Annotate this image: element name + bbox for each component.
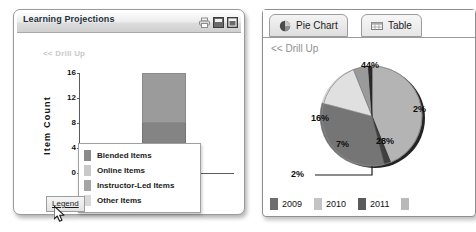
pie-legend-item-2011[interactable]: 2011 xyxy=(358,198,389,210)
legend-swatch-online xyxy=(84,165,91,176)
legend-swatch-blended xyxy=(84,150,91,161)
pie-legend-swatch-2011 xyxy=(358,198,366,210)
pie-chart-panel: Pie Chart Table << Drill Up xyxy=(262,9,476,217)
pie-chart-icon xyxy=(279,20,291,32)
pie-legend-item-2010[interactable]: 2010 xyxy=(314,198,346,210)
y-tick-0: 0 xyxy=(56,168,76,177)
legend-label-online: Online Items xyxy=(97,166,145,175)
legend-item-blended[interactable]: Blended Items xyxy=(79,148,200,163)
mouse-cursor xyxy=(54,206,68,228)
pie-legend-item-truncated[interactable] xyxy=(401,198,413,210)
pie-legend-label-2011: 2011 xyxy=(370,199,389,209)
pie-label-28: 28% xyxy=(376,136,394,146)
pie-chart: 44% 2% 28% 7% 16% 2% xyxy=(263,56,475,186)
y-tick-16: 16 xyxy=(56,68,76,77)
pie-legend-swatch-truncated xyxy=(401,198,409,210)
titlebar-icon-group xyxy=(199,14,238,25)
pie-label-44: 44% xyxy=(361,60,379,70)
legend-label-instructor-led: Instructor-Led Items xyxy=(97,181,174,190)
y-axis-label: Item Count xyxy=(40,81,54,171)
bar-segment-online[interactable] xyxy=(142,73,186,123)
y-tick-8: 8 xyxy=(56,118,76,127)
pie-chart-svg[interactable] xyxy=(263,56,475,186)
pie-label-2b: 2% xyxy=(291,169,304,179)
pie-legend-item-2009[interactable]: 2009 xyxy=(270,198,302,210)
legend-label-blended: Blended Items xyxy=(97,151,152,160)
pie-legend-swatch-2009 xyxy=(270,198,278,210)
tab-pie-chart[interactable]: Pie Chart xyxy=(269,14,348,37)
pie-legend-label-2010: 2010 xyxy=(326,199,346,209)
drill-up-link-left[interactable]: << Drill Up xyxy=(43,49,85,58)
y-tick-12: 12 xyxy=(56,93,76,102)
drill-up-link-right[interactable]: << Drill Up xyxy=(271,43,318,54)
panel-title: Learning Projections xyxy=(23,14,115,24)
tab-pie-chart-label: Pie Chart xyxy=(296,20,338,31)
y-axis-ticks: 16 12 8 4 0 xyxy=(54,65,76,185)
legend-label-other: Other Items xyxy=(97,196,141,205)
tab-table-label: Table xyxy=(388,20,412,31)
table-grid-icon xyxy=(371,20,383,32)
print-icon[interactable] xyxy=(199,14,210,25)
legend-item-other[interactable]: Other Items xyxy=(79,193,200,208)
pie-legend-swatch-2010 xyxy=(314,198,322,210)
pie-label-16: 16% xyxy=(311,113,329,123)
learning-projections-panel: Learning Projections xyxy=(13,9,245,215)
pie-label-7: 7% xyxy=(336,139,349,149)
legend-item-online[interactable]: Online Items xyxy=(79,163,200,178)
minimize-window-icon[interactable] xyxy=(213,14,224,25)
app-screenshot: Learning Projections xyxy=(0,0,476,232)
pie-legend-label-2009: 2009 xyxy=(282,199,302,209)
pie-label-2a: 2% xyxy=(413,104,426,114)
y-tick-4: 4 xyxy=(56,143,76,152)
legend-item-instructor-led[interactable]: Instructor-Led Items xyxy=(79,178,200,193)
tab-table[interactable]: Table xyxy=(361,14,422,37)
tab-strip: Pie Chart Table xyxy=(263,10,475,38)
legend-popup: Blended Items Online Items Instructor-Le… xyxy=(78,143,201,213)
legend-swatch-other xyxy=(84,195,91,206)
legend-swatch-instructor-led xyxy=(84,180,91,191)
restore-window-icon[interactable] xyxy=(227,14,238,25)
pie-legend: 2009 2010 2011 xyxy=(270,198,421,210)
